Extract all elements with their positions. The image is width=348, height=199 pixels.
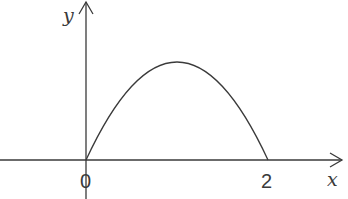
x-tick-2-label: 2 xyxy=(261,171,272,191)
parabola-curve xyxy=(86,62,268,160)
y-axis-label: y xyxy=(63,6,74,25)
x-axis-label: x xyxy=(327,170,338,189)
function-graph: y 0 2 x xyxy=(0,0,348,199)
plot-canvas xyxy=(0,0,348,199)
origin-label: 0 xyxy=(80,171,91,191)
